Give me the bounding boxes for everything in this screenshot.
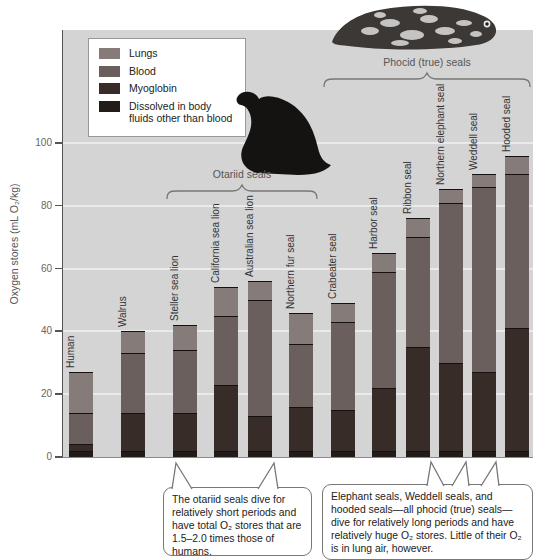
bar-segment [331,451,355,457]
bar-segment [214,385,238,451]
legend-label: Myoglobin [129,82,177,95]
bar-segment [173,325,197,350]
bar-segment [439,203,463,363]
phocid-seal-illustration-icon [328,1,510,53]
category-label: California sea lion [210,204,221,284]
bar-segment [406,237,430,347]
oxygen-stores-figure: HumanWalrusSteller sea lionCalifornia se… [0,0,533,560]
bar-segment [331,303,355,322]
stacked-bar-northern-fur-seal [289,313,313,457]
bar-segment [69,413,93,444]
stacked-bar-hooded-seal [505,156,529,457]
phocid-brace [323,71,531,88]
stacked-bar-walrus [121,331,145,457]
bar-segment [505,156,529,175]
bar-segment [121,413,145,451]
category-label: Ribbon seal [402,162,413,215]
stacked-bar-california-sea-lion [214,287,238,457]
stacked-bar-ribbon-seal [406,218,430,457]
y-tick-label: 100 [18,137,52,148]
y-tick-label: 60 [18,263,52,274]
y-tick-mark [55,142,62,144]
category-label: Australian sea lion [244,195,255,277]
category-label: Walrus [117,297,128,328]
callout-otariid-text: The otariid seals dive for relatively sh… [172,494,301,557]
category-label: Harbor seal [368,197,379,249]
group-label-otariid: Otariid seals [166,168,318,180]
bar-segment [69,444,93,450]
sea-lion-illustration-icon [226,86,336,178]
bar-segment [372,253,396,272]
bar-segment [472,372,496,451]
stacked-bar-harbor-seal [372,253,396,457]
bar-segment [372,388,396,451]
bar-segment [439,363,463,451]
bar-segment [248,300,272,416]
bar-segment [248,451,272,457]
bar-segment [472,174,496,187]
bar-segment [214,316,238,385]
y-tick-label: 0 [18,451,52,462]
legend-item-dissolved: Dissolved in body fluids other than bloo… [99,100,237,125]
bar-segment [214,287,238,315]
bar-segment [121,353,145,413]
callout-otariid: The otariid seals dive for relatively sh… [163,487,312,556]
group-label-phocid: Phocid (true) seals [323,56,531,68]
bar-segment [331,322,355,410]
stacked-bar-steller-sea-lion [173,325,197,457]
bar-segment [505,174,529,328]
bar-segment [289,407,313,451]
lungs-swatch-icon [99,48,120,59]
category-label: Weddell seal [468,113,479,170]
legend: Lungs Blood Myoglobin Dissolved in body … [88,38,246,137]
legend-item-lungs: Lungs [99,47,237,60]
category-label: Human [65,336,76,368]
dissolved-swatch-icon [99,101,120,112]
stacked-bar-crabeater-seal [331,303,355,457]
bar-segment [331,410,355,451]
otariid-brace [166,183,318,200]
bar-segment [173,350,197,413]
bar-segment [472,187,496,372]
stacked-bar-weddell-seal [472,174,496,457]
bar-segment [406,218,430,237]
y-tick-label: 20 [18,388,52,399]
bar-segment [69,451,93,457]
legend-item-myoglobin: Myoglobin [99,82,237,95]
category-label: Crabeater seal [327,234,338,300]
bar-segment [372,272,396,388]
bar-segment [289,451,313,457]
bar-segment [173,451,197,457]
bar-segment [289,344,313,407]
bar-segment [372,451,396,457]
stacked-bar-human [69,372,93,457]
bar-segment [439,451,463,457]
bar-segment [248,281,272,300]
category-label: Northern elephant seal [435,83,446,184]
category-label: Hooded seal [501,95,512,151]
y-tick-mark [55,205,62,207]
y-tick-mark [55,456,62,458]
bar-segment [505,451,529,457]
category-label: Northern fur seal [285,234,296,308]
bar-segment [289,313,313,344]
callout-phocid-text: Elephant seals, Weddell seals, and hoode… [331,491,522,554]
y-axis-title: Oxygen stores (mL O₂/kg) [8,144,20,344]
legend-label: Dissolved in body fluids other than bloo… [129,100,237,125]
y-tick-mark [55,330,62,332]
stacked-bar-northern-elephant-seal [439,189,463,457]
blood-swatch-icon [99,66,120,77]
bar-segment [121,451,145,457]
bar-segment [248,416,272,451]
bar-segment [121,331,145,353]
y-tick-mark [55,268,62,270]
bar-segment [69,372,93,413]
bar-segment [406,451,430,457]
bar-segment [406,347,430,451]
y-tick-label: 80 [18,200,52,211]
bar-segment [472,451,496,457]
stacked-bar-australian-sea-lion [248,281,272,457]
legend-label: Lungs [129,47,158,60]
bar-segment [214,451,238,457]
category-label: Steller sea lion [169,256,180,322]
